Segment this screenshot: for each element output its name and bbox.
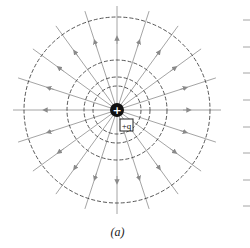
field-arrow-icon	[75, 52, 79, 57]
field-arrow-icon	[49, 88, 55, 90]
field-arrow-icon	[95, 173, 97, 179]
point-charge-field-diagram: + +q	[0, 0, 250, 248]
field-arrow-icon	[75, 163, 79, 168]
field-arrow-icon	[59, 68, 64, 72]
field-arrow-icon	[137, 42, 139, 48]
field-arrow-icon	[156, 163, 160, 168]
figure-caption: (a)	[0, 225, 235, 240]
positive-charge-icon: +	[110, 103, 124, 117]
svg-text:+: +	[112, 104, 121, 117]
field-arrow-icon	[137, 173, 139, 179]
field-arrow-icon	[170, 149, 175, 153]
field-line	[85, 110, 117, 209]
field-arrow-icon	[95, 42, 97, 48]
field-line	[33, 49, 117, 110]
svg-text:+q: +q	[122, 121, 132, 131]
field-line	[33, 110, 117, 171]
field-arrow-icon	[180, 130, 186, 132]
field-arrow-icon	[170, 68, 175, 72]
field-arrow-icon	[49, 130, 55, 132]
field-arrow-icon	[180, 88, 186, 90]
field-arrow-icon	[59, 149, 64, 153]
field-line	[18, 78, 117, 110]
adjacent-figure-field-lines	[243, 20, 250, 206]
charge-label: +q	[120, 119, 133, 131]
electric-field-figure: + +q (a)	[0, 0, 250, 248]
field-arrow-icon	[156, 52, 160, 57]
